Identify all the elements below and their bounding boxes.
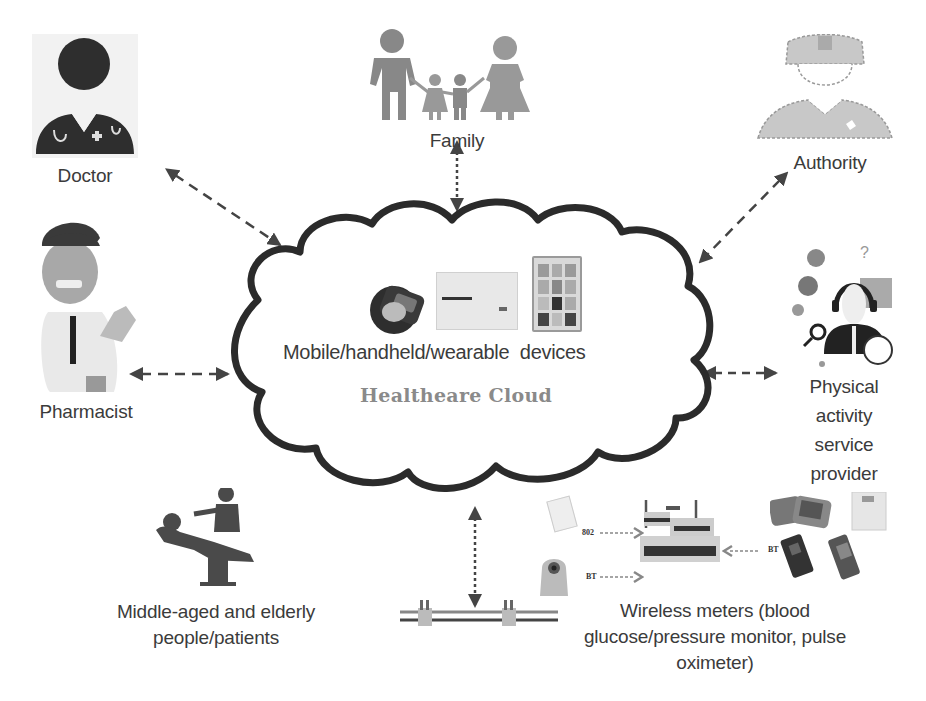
- devices-label: Mobile/handheld/wearable devices: [283, 341, 586, 364]
- wireless-meters-label-line-1: Wireless meters (blood: [560, 598, 870, 624]
- sensor-bar-icon: [396, 600, 562, 630]
- wireless-meters-label-line-3: oximeter): [560, 650, 870, 676]
- pharmacist-label: Pharmacist: [26, 399, 146, 425]
- svg-text:?: ?: [860, 244, 869, 261]
- link-arrow-bottom: [600, 570, 644, 584]
- pharmacist-icon: [30, 216, 144, 396]
- blood-pressure-monitor-icon: [770, 492, 894, 582]
- cloud-title: Healtheare Cloud: [360, 384, 552, 406]
- physical-activity-label-line-2: activity: [782, 401, 906, 430]
- link-arrow-right: [722, 544, 766, 558]
- family-label: Family: [412, 128, 502, 154]
- wireless-meters-label-line-2: glucose/pressure monitor, pulse: [560, 624, 870, 650]
- router-link-label-bottom: BT: [586, 572, 597, 581]
- physical-activity-label: Physical activity service provider: [782, 372, 906, 488]
- physical-activity-label-line-4: provider: [782, 459, 906, 488]
- patients-label-line-2: people/patients: [96, 625, 336, 651]
- patients-label: Middle-aged and elderly people/patients: [96, 599, 336, 651]
- link-arrow-top: [600, 526, 644, 540]
- call-center-agent-icon: ?: [784, 242, 900, 368]
- doctor-icon: [32, 34, 138, 158]
- wireless-meters-label: Wireless meters (blood glucose/pressure …: [560, 598, 870, 676]
- smartphone-apps-image: [532, 256, 582, 332]
- authority-label: Authority: [780, 150, 880, 176]
- doctor-label: Doctor: [40, 163, 130, 189]
- tablet-device-image: [436, 272, 518, 330]
- physical-activity-label-line-3: service: [782, 430, 906, 459]
- wireless-router-icon: [640, 498, 722, 566]
- patients-label-line-1: Middle-aged and elderly: [96, 599, 336, 625]
- patient-bed-icon: [154, 488, 262, 588]
- router-link-label-top: 802: [582, 528, 594, 537]
- physical-activity-label-line-1: Physical: [782, 372, 906, 401]
- family-icon: [360, 28, 538, 124]
- police-officer-icon: [756, 34, 894, 142]
- smartwatch-icon: [364, 270, 436, 338]
- ip-camera-icon: [538, 554, 570, 598]
